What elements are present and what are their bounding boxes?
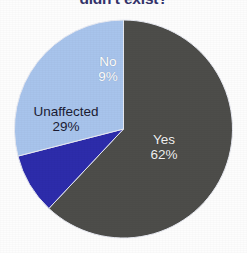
slice-label-yes: Yes 62% xyxy=(140,132,188,162)
slice-label-yes-value: 62% xyxy=(140,147,188,162)
slice-label-no-value: 9% xyxy=(86,69,130,84)
pie-chart-figure: didn't exist? Yes 62% No 9% Unaffected 2… xyxy=(0,0,247,253)
slice-label-no-name: No xyxy=(86,54,130,69)
slice-label-yes-name: Yes xyxy=(140,132,188,147)
slice-label-unaffected-name: Unaffected xyxy=(16,104,116,119)
slice-label-no: No 9% xyxy=(86,54,130,84)
slice-label-unaffected-value: 29% xyxy=(16,119,116,134)
slice-label-unaffected: Unaffected 29% xyxy=(16,104,116,134)
